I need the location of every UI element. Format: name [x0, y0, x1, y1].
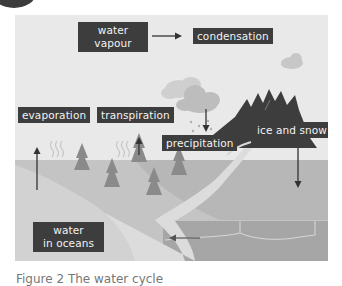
label-water-vapour: water vapour	[78, 22, 148, 52]
label-water-in-oceans-line1: water	[37, 224, 100, 237]
figure-caption: Figure 2 The water cycle	[16, 272, 163, 286]
label-transpiration: transpiration	[97, 107, 174, 123]
label-precipitation: precipitation	[162, 135, 237, 151]
water-cycle-diagram: water vapour condensation evaporation tr…	[15, 15, 328, 261]
label-ice-and-snow: ice and snow	[253, 122, 328, 138]
label-water-in-oceans: water in oceans	[33, 222, 104, 252]
label-water-vapour-line2: vapour	[82, 37, 144, 50]
label-evaporation: evaporation	[18, 107, 90, 123]
small-cloud	[281, 53, 303, 69]
label-water-vapour-line1: water	[82, 24, 144, 37]
label-water-in-oceans-line2: in oceans	[37, 237, 100, 250]
corner-badge	[0, 0, 36, 8]
label-condensation: condensation	[193, 28, 273, 44]
